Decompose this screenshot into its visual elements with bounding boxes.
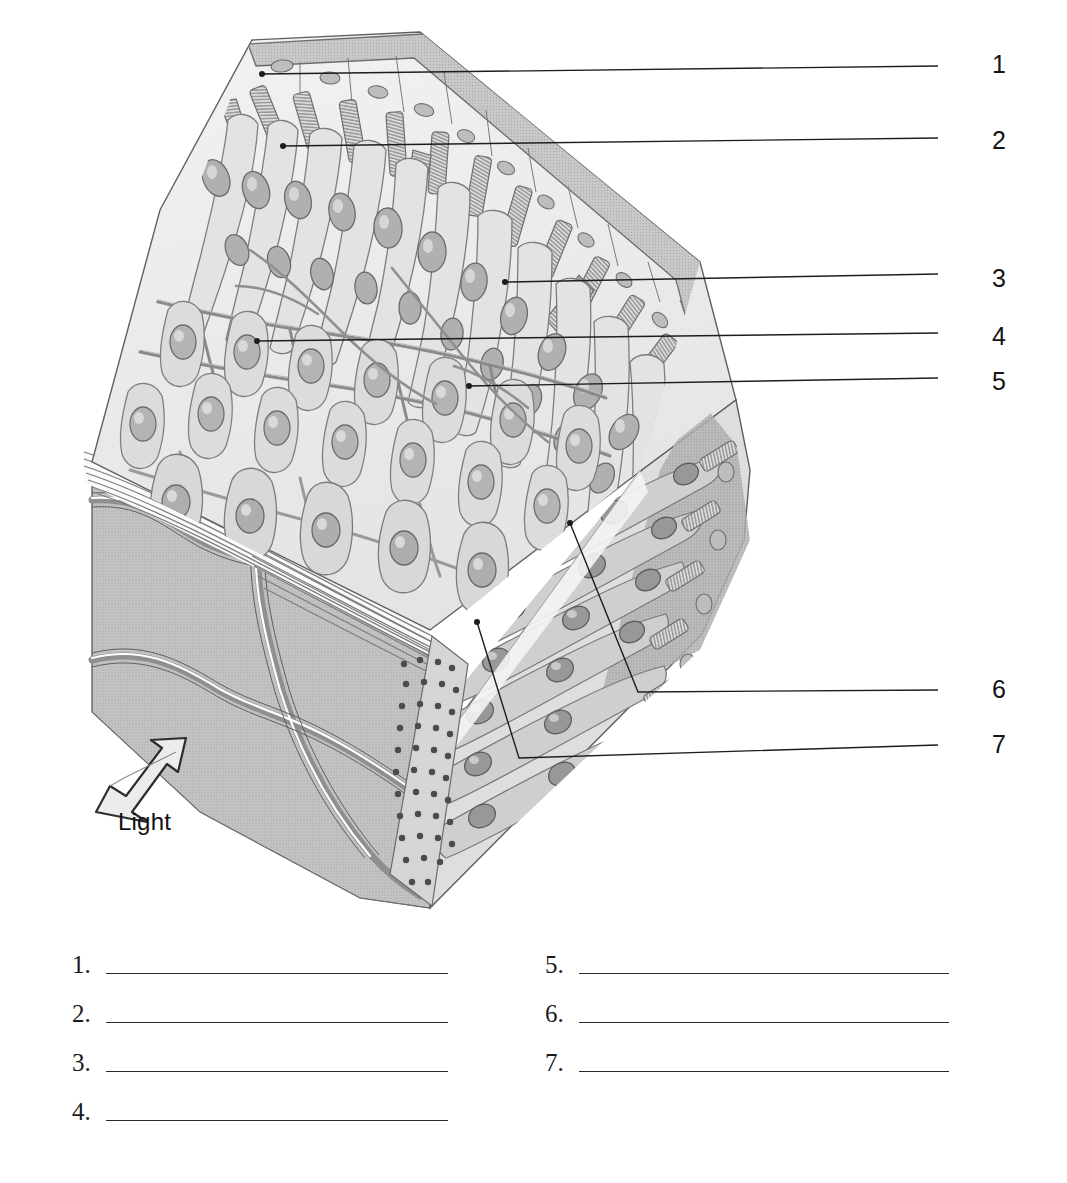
answer-number: 5.: [545, 952, 579, 979]
callout-number-4: 4: [992, 324, 1006, 349]
answer-row[interactable]: 3.: [72, 1028, 448, 1077]
answer-write-line[interactable]: [106, 1022, 448, 1023]
answer-number: 7.: [545, 1050, 579, 1077]
answer-column-right: 5. 6. 7.: [545, 930, 949, 1077]
answer-write-line[interactable]: [106, 1071, 448, 1072]
callout-number-6: 6: [992, 677, 1006, 702]
answer-number: 4.: [72, 1099, 106, 1126]
callout-number-7: 7: [992, 732, 1006, 757]
callout-number-2: 2: [992, 128, 1006, 153]
answer-write-line[interactable]: [106, 1120, 448, 1121]
answer-write-line[interactable]: [579, 1071, 949, 1072]
retina-diagram-figure: 1 2 3 4 5 6 7 Light: [0, 0, 1067, 930]
answer-row[interactable]: 6.: [545, 979, 949, 1028]
answer-number: 1.: [72, 952, 106, 979]
answer-number: 6.: [545, 1001, 579, 1028]
answer-number: 3.: [72, 1050, 106, 1077]
answer-row[interactable]: 2.: [72, 979, 448, 1028]
answer-row[interactable]: 5.: [545, 930, 949, 979]
answer-row[interactable]: 7.: [545, 1028, 949, 1077]
callout-number-1: 1: [992, 52, 1006, 77]
answer-number: 2.: [72, 1001, 106, 1028]
answer-write-line[interactable]: [579, 973, 949, 974]
answer-write-line[interactable]: [106, 973, 448, 974]
answer-row[interactable]: 4.: [72, 1077, 448, 1126]
callout-number-3: 3: [992, 266, 1006, 291]
light-label: Light: [118, 808, 171, 836]
answer-blanks: 1. 2. 3. 4. 5. 6. 7.: [0, 930, 1067, 1183]
answer-column-left: 1. 2. 3. 4.: [72, 930, 448, 1126]
answer-write-line[interactable]: [579, 1022, 949, 1023]
answer-row[interactable]: 1.: [72, 930, 448, 979]
retina-illustration: [0, 0, 1067, 930]
callout-number-5: 5: [992, 369, 1006, 394]
